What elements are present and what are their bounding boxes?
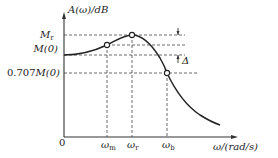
wm-tick-label: ωm bbox=[101, 139, 116, 152]
arrow-down-icon bbox=[177, 31, 180, 35]
wb-point bbox=[164, 70, 169, 75]
y-axis-arrow-icon bbox=[62, 12, 66, 19]
wb-tick-label: ωb bbox=[162, 139, 175, 152]
arrow-up-icon bbox=[177, 55, 180, 59]
axes bbox=[62, 12, 238, 139]
y-axis-label: A(ω)/dB bbox=[67, 4, 108, 15]
frequency-response-diagram: A(ω)/dB Mr M(0) 0.707M(0) 0 ωm ωr ωb ω/(… bbox=[0, 0, 278, 158]
wm-point bbox=[104, 42, 109, 47]
marked-points bbox=[104, 32, 169, 75]
origin-label: 0 bbox=[59, 137, 65, 148]
delta-arrows bbox=[177, 28, 180, 63]
x-axis-arrow-icon bbox=[231, 135, 238, 139]
mr-tick-label: Mr bbox=[39, 29, 54, 42]
wr-peak-point bbox=[129, 32, 134, 37]
magnitude-curve bbox=[64, 35, 220, 125]
m0707-tick-label: 0.707M(0) bbox=[7, 67, 60, 78]
x-axis-label: ω/(rad/s) bbox=[213, 141, 258, 152]
m0-tick-label: M(0) bbox=[33, 43, 59, 54]
delta-label: Δ bbox=[181, 55, 189, 66]
wr-tick-label: ωr bbox=[127, 139, 139, 152]
guide-lines bbox=[64, 35, 197, 137]
